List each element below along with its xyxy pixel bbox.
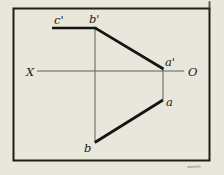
label-c-prime: c' — [54, 13, 64, 27]
diagram-frame — [14, 9, 210, 161]
label-a-prime: a' — [165, 55, 175, 69]
edge-bprime-aprime — [95, 28, 164, 69]
scan-smudge-bottom-right — [188, 167, 200, 168]
edge-a-b — [95, 100, 163, 143]
label-a: a — [166, 95, 173, 109]
label-b: b — [84, 141, 91, 155]
label-x-axis-end: X — [25, 65, 35, 79]
projection-diagram: c'b'Xa'Oab — [0, 0, 224, 175]
label-o-axis-end: O — [188, 65, 198, 79]
label-b-prime: b' — [89, 12, 100, 26]
